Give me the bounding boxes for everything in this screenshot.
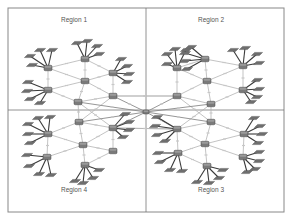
link-label-mark (177, 116, 180, 117)
router-icon[interactable] (44, 65, 52, 71)
router-icon[interactable] (203, 163, 211, 169)
router-highlight (240, 64, 247, 66)
link-label-mark (160, 103, 163, 104)
router-highlight (208, 120, 215, 122)
link-label-mark (190, 63, 193, 64)
link-label-mark (64, 139, 67, 140)
router-icon[interactable] (109, 70, 117, 76)
link-label-mark (176, 81, 179, 82)
link-label-mark (65, 74, 68, 75)
router-highlight (44, 155, 51, 157)
router-highlight (82, 57, 89, 59)
router-highlight (76, 120, 83, 122)
core-router-icon[interactable] (143, 110, 149, 114)
router-highlight (45, 132, 52, 134)
link-label-mark (205, 154, 208, 155)
router-icon[interactable] (81, 78, 89, 84)
link-label-mark (193, 125, 196, 126)
router-icon[interactable] (239, 63, 247, 69)
router-highlight (240, 88, 247, 90)
router-highlight (202, 142, 209, 144)
region-4-label: Region 4 (34, 186, 114, 193)
router-icon[interactable] (109, 148, 117, 154)
router-icon[interactable] (201, 141, 209, 147)
router-highlight (204, 164, 211, 166)
router-icon[interactable] (109, 93, 117, 99)
link-label-mark (223, 138, 226, 139)
link-label-mark (242, 77, 245, 78)
link-label-mark (193, 99, 196, 100)
link-label-mark (210, 112, 213, 113)
link-label-mark (128, 103, 131, 104)
link-label-mark (190, 136, 193, 137)
router-icon[interactable] (75, 119, 83, 125)
router-highlight (174, 66, 181, 68)
link-label-mark (98, 65, 101, 66)
router-highlight (202, 57, 209, 59)
link-label-mark (62, 95, 65, 96)
link-label-mark (80, 91, 83, 92)
router-highlight (45, 66, 52, 68)
link-label-mark (97, 147, 100, 148)
link-label-mark (111, 106, 114, 107)
router-highlight (110, 94, 117, 96)
router-icon[interactable] (81, 162, 89, 168)
link-label-mark (111, 116, 114, 117)
link-label-mark (224, 73, 227, 74)
link-label-mark (207, 132, 210, 133)
link-label-mark (97, 136, 100, 137)
link-label-mark (77, 111, 80, 112)
router-icon[interactable] (240, 131, 248, 137)
link-label-mark (208, 92, 211, 93)
link-label-mark (177, 107, 180, 108)
router-highlight (144, 111, 149, 112)
link-label-mark (226, 96, 229, 97)
link-label-mark (62, 127, 65, 128)
region-1-label: Region 1 (34, 16, 114, 23)
router-icon[interactable] (174, 150, 182, 156)
link-label-mark (223, 150, 226, 151)
router-icon[interactable] (207, 101, 215, 107)
router-highlight (110, 71, 117, 73)
link-label-mark (205, 69, 208, 70)
router-icon[interactable] (44, 131, 52, 137)
router-highlight (110, 149, 117, 151)
router-icon[interactable] (109, 125, 117, 131)
link-label-mark (98, 76, 101, 77)
link-label-mark (226, 127, 229, 128)
router-highlight (82, 79, 89, 81)
link-label-mark (190, 148, 193, 149)
region-2-label: Region 2 (171, 16, 251, 23)
link-label-mark (193, 116, 196, 117)
link-label-mark (94, 98, 97, 99)
link-label-mark (95, 124, 98, 125)
router-icon[interactable] (239, 87, 247, 93)
router-highlight (80, 143, 87, 145)
router-icon[interactable] (173, 65, 181, 71)
router-icon[interactable] (201, 56, 209, 62)
router-icon[interactable] (173, 126, 181, 132)
router-highlight (204, 79, 211, 81)
link-label-mark (242, 145, 245, 146)
link-label-mark (191, 159, 194, 160)
link-label-mark (112, 84, 115, 85)
router-highlight (174, 94, 181, 96)
router-icon[interactable] (207, 119, 215, 125)
router-highlight (175, 151, 182, 153)
router-icon[interactable] (203, 78, 211, 84)
link-label-mark (47, 78, 50, 79)
link-label-mark (176, 140, 179, 141)
router-icon[interactable] (81, 56, 89, 62)
router-icon[interactable] (43, 154, 51, 160)
link-label-mark (65, 63, 68, 64)
link-label-mark (98, 157, 101, 158)
link-label-mark (84, 69, 87, 70)
router-icon[interactable] (173, 93, 181, 99)
router-icon[interactable] (44, 87, 52, 93)
router-highlight (174, 127, 181, 129)
router-icon[interactable] (239, 154, 247, 160)
router-icon[interactable] (74, 99, 82, 105)
router-highlight (240, 155, 247, 157)
router-icon[interactable] (79, 142, 87, 148)
router-highlight (82, 163, 89, 165)
